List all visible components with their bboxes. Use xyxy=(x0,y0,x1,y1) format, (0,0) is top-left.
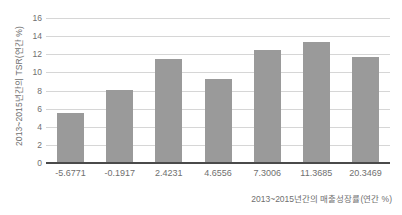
x-axis-title: 2013~2015년간의 매출성장률(연간 %) xyxy=(251,192,392,204)
x-axis-tick-labels: -5.6771-0.19172.42314.65567.300611.36852… xyxy=(46,168,390,182)
x-axis-tick-label: 4.6556 xyxy=(191,168,245,179)
bar xyxy=(155,59,182,163)
bars-layer xyxy=(46,18,390,163)
x-axis-tick-label: 7.3006 xyxy=(240,168,294,179)
x-axis-tick-label: -0.1917 xyxy=(93,168,147,179)
y-axis-tick-label: 4 xyxy=(26,123,42,132)
bar xyxy=(303,42,330,163)
bar xyxy=(106,90,133,163)
y-axis-tick-labels: 1614121086420 xyxy=(24,18,42,163)
y-axis-tick-label: 6 xyxy=(26,105,42,114)
y-axis-tick-label: 2 xyxy=(26,141,42,150)
bar xyxy=(352,57,379,163)
y-axis-tick-label: 0 xyxy=(26,159,42,168)
x-axis-line xyxy=(46,162,390,164)
bar xyxy=(254,50,281,163)
bar xyxy=(205,79,232,163)
y-axis-tick-label: 12 xyxy=(26,50,42,59)
y-axis-tick-label: 16 xyxy=(26,14,42,23)
x-axis-tick-label: 20.3469 xyxy=(338,168,392,179)
x-axis-tick-label: -5.6771 xyxy=(44,168,98,179)
y-axis-title: 2013~2015년간의 TSR(연간 %) xyxy=(12,6,24,166)
x-axis-tick-label: 11.3685 xyxy=(289,168,343,179)
bar xyxy=(57,113,84,163)
x-axis-tick-label: 2.4231 xyxy=(142,168,196,179)
y-axis-tick-label: 10 xyxy=(26,68,42,77)
bar-chart: 2013~2015년간의 TSR(연간 %) 1614121086420 -5.… xyxy=(0,0,402,215)
y-axis-tick-label: 14 xyxy=(26,32,42,41)
y-axis-tick-label: 8 xyxy=(26,87,42,96)
